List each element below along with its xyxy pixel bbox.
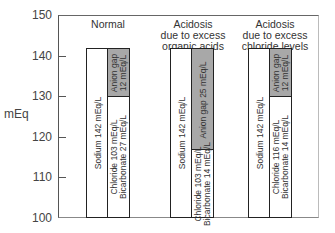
anion-gap-segment-normal: Anion gap12 mEq/L	[107, 48, 130, 98]
sodium-bar-normal: Sodium 142 mEq/L	[86, 48, 109, 218]
y-tick-mark	[58, 177, 66, 178]
anion-gap-segment-organic: Anion gap 25 mEq/L	[191, 48, 214, 151]
chloride-bicarbonate-segment-organic: Chloride 103 mEq/LBicarbonate 14 mEq/L	[191, 149, 214, 218]
y-tick-150: 150	[24, 8, 52, 22]
sodium-bar-organic: Sodium 142 mEq/L	[170, 48, 193, 218]
y-tick-140: 140	[24, 49, 52, 63]
y-axis-label: mEq	[4, 107, 29, 121]
y-tick-mark	[58, 96, 66, 97]
y-tick-mark	[58, 56, 66, 57]
y-tick-100: 100	[24, 211, 52, 225]
sodium-bar-chloride: Sodium 142 mEq/L	[248, 48, 271, 218]
chloride-bicarbonate-segment-normal: Chloride 103 mEq/LBicarbonate 27 mEq/L	[107, 96, 130, 218]
chloride-bicarbonate-segment-chloride: Chloride 116 mEq/LBicarbonate 14 mEq/L	[269, 96, 292, 218]
y-tick-120: 120	[24, 130, 52, 144]
anion-gap-segment-chloride: Anion gap12 mEq/L	[269, 48, 292, 98]
sodium-label: Sodium 142 mEq/L	[93, 97, 102, 169]
y-tick-mark	[58, 137, 66, 138]
y-tick-130: 130	[24, 89, 52, 103]
y-tick-110: 110	[24, 170, 52, 184]
group-title-normal: Normal	[78, 19, 138, 30]
